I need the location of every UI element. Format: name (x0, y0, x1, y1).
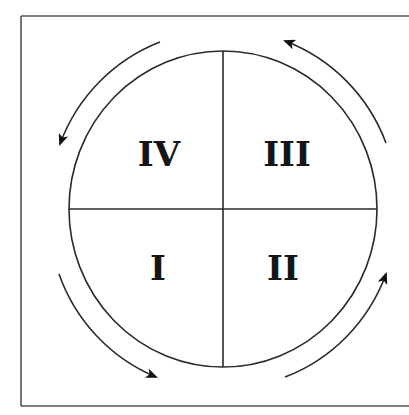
quadrant-label-ii: II (267, 248, 299, 288)
arrow-top-left-icon (60, 42, 160, 144)
arrow-bottom-right-icon (285, 274, 386, 377)
quadrant-label-iii: III (263, 134, 311, 174)
arrow-bottom-left-icon (59, 274, 156, 377)
quadrant-cycle-diagram: IV III I II (0, 0, 409, 415)
quadrant-label-i: I (150, 248, 166, 288)
quadrant-label-iv: IV (138, 134, 181, 174)
arrow-top-right-icon (285, 41, 386, 143)
frame (21, 16, 409, 406)
